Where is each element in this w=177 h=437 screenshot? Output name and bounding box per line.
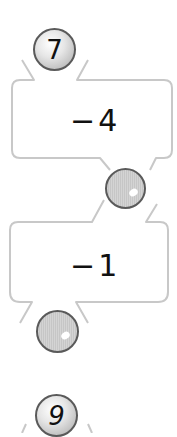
operation-box-1: −4 [70, 103, 120, 138]
operation-label: −1 [70, 248, 120, 283]
answer-ball-1[interactable] [105, 168, 146, 209]
shine-highlight [128, 187, 139, 198]
operation-label: −4 [70, 103, 120, 138]
next-start-number: 9 [48, 403, 65, 429]
start-number: 7 [46, 37, 63, 63]
shine-highlight [60, 330, 71, 341]
next-start-number-ball: 9 [35, 394, 78, 437]
operation-box-2: −1 [70, 248, 120, 283]
answer-ball-2[interactable] [36, 310, 79, 353]
start-number-ball: 7 [33, 28, 76, 71]
